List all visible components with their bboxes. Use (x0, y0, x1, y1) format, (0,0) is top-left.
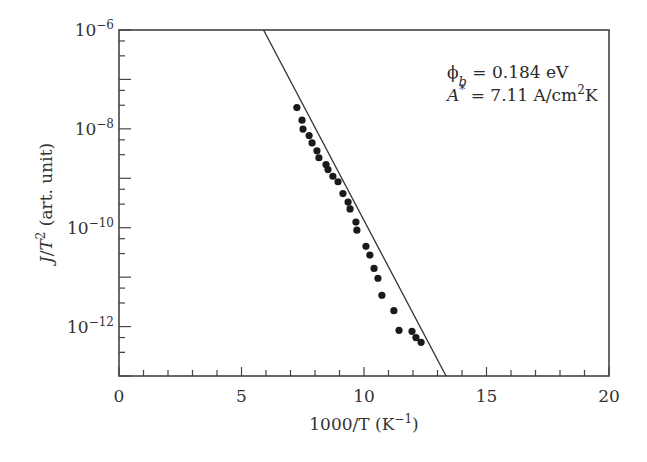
data-point (298, 117, 305, 124)
data-point (293, 104, 300, 111)
data-point (329, 173, 336, 180)
x-tick-label: 20 (598, 386, 620, 406)
fit-line (264, 30, 447, 376)
data-point (334, 178, 341, 185)
data-point (299, 125, 306, 132)
data-point (308, 139, 315, 146)
y-axis-title: J/T2 (art. unit) (34, 143, 56, 266)
data-points (293, 104, 424, 346)
x-tick-label: 0 (114, 386, 125, 406)
y-tick-label: 10−10 (67, 216, 114, 238)
data-point (346, 205, 353, 212)
x-tick-label: 5 (236, 386, 247, 406)
y-tick-label: 10−8 (75, 117, 114, 139)
y-tick-labels: 10−610−810−1010−12 (67, 18, 114, 337)
chart: 05101520 10−610−810−1010−12 1000/T (K−1)… (0, 0, 647, 462)
x-axis-title: 1000/T (K−1) (309, 412, 418, 434)
richardson-constant-annotation: A* = 7.11 A/cm2K (445, 83, 598, 105)
data-point (324, 166, 331, 173)
data-point (370, 265, 377, 272)
x-tick-label: 15 (476, 386, 498, 406)
data-point (417, 339, 424, 346)
data-point (390, 307, 397, 314)
y-tick-label: 10−12 (67, 315, 114, 337)
data-point (374, 275, 381, 282)
x-tick-labels: 05101520 (114, 386, 620, 406)
data-point (378, 292, 385, 299)
data-point (339, 190, 346, 197)
data-point (366, 251, 373, 258)
data-point (353, 227, 360, 234)
x-tick-label: 10 (353, 386, 375, 406)
data-point (395, 327, 402, 334)
data-point (362, 243, 369, 250)
data-point (408, 328, 415, 335)
data-point (344, 198, 351, 205)
data-point (313, 147, 320, 154)
data-point (306, 132, 313, 139)
data-point (315, 154, 322, 161)
data-point (352, 218, 359, 225)
y-tick-label: 10−6 (75, 18, 114, 40)
